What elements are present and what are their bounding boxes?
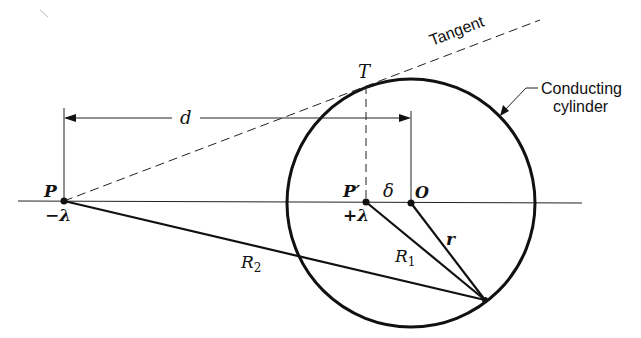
label-P-prime: P′ <box>342 181 361 201</box>
label-R2: R2 <box>240 252 261 275</box>
label-d: d <box>180 107 192 128</box>
diagram-svg: Tangent Conducting cylinder T d P −λ P′ … <box>0 0 641 338</box>
point-O <box>408 200 415 207</box>
horizontal-axis <box>18 201 582 203</box>
label-minus-lambda: −λ <box>45 205 71 225</box>
cylinder-leader-line <box>503 88 538 112</box>
conducting-label-line2: cylinder <box>553 98 609 115</box>
label-plus-lambda: +λ <box>343 205 369 225</box>
conducting-label-line1: Conducting <box>541 80 622 97</box>
label-P: P <box>43 181 58 201</box>
stray-mark <box>40 10 48 17</box>
label-R1: R1 <box>394 246 415 269</box>
label-r: r <box>446 229 456 249</box>
label-T: T <box>358 61 372 82</box>
d-arrow-right-icon <box>399 114 411 122</box>
point-Q <box>482 297 488 303</box>
point-P <box>61 198 68 205</box>
d-arrow-left-icon <box>64 114 76 122</box>
label-delta: δ <box>383 180 394 201</box>
label-O: O <box>415 183 429 202</box>
diagram-canvas: Tangent Conducting cylinder T d P −λ P′ … <box>0 0 641 338</box>
tangent-line <box>64 20 540 201</box>
